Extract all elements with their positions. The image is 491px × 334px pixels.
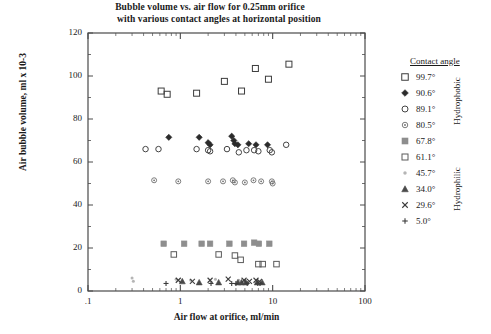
data-point-marker: [132, 280, 135, 283]
legend-item-label: 61.1°: [416, 152, 435, 162]
legend-item-80-5[interactable]: 80.5°: [396, 117, 491, 133]
data-point-marker: [164, 91, 170, 97]
data-point-marker: [196, 134, 202, 140]
series-9: [164, 281, 263, 286]
y-tick-label: 60: [48, 156, 82, 166]
legend-marker-icon: [396, 85, 416, 101]
legend-marker-svg: [396, 85, 416, 101]
data-point-marker: [216, 279, 222, 285]
legend-marker-glyph: [402, 202, 408, 208]
data-point-marker: [208, 278, 213, 283]
data-point-marker: [214, 278, 217, 281]
legend-marker-svg: [396, 149, 416, 165]
legend-marker-glyph: [402, 186, 409, 192]
y-tick-label: 20: [48, 242, 82, 252]
legend-item-99-7[interactable]: 99.7°: [396, 69, 491, 85]
legend-marker-svg: [396, 117, 416, 133]
legend-marker-icon: [396, 101, 416, 117]
legend-item-89-1[interactable]: 89.1°: [396, 101, 491, 117]
legend-item-90-6[interactable]: 90.6°: [396, 85, 491, 101]
data-point-marker: [156, 146, 162, 152]
data-point-marker: [286, 61, 292, 67]
legend-item-5-0[interactable]: 5.0°: [396, 213, 491, 229]
data-point-marker: [171, 252, 177, 258]
data-point-marker: [246, 141, 252, 147]
chart-figure: Bubble volume vs. air flow for 0.25mm or…: [0, 0, 491, 334]
data-point-marker: [232, 253, 238, 259]
legend-marker-glyph: [402, 154, 408, 160]
data-point-marker: [161, 241, 167, 247]
legend-item-label: 34.0°: [416, 184, 435, 194]
legend-item-label: 29.6°: [416, 200, 435, 210]
data-point-marker: [226, 277, 231, 282]
data-point-marker: [265, 76, 271, 82]
data-point-marker: [194, 90, 200, 96]
y-tick-label: 120: [48, 27, 82, 37]
legend-marker-glyph: [402, 138, 408, 144]
legend-item-67-8[interactable]: 67.8°: [396, 133, 491, 149]
legend-item-34-0[interactable]: 34.0°: [396, 181, 491, 197]
series-4: [161, 240, 272, 247]
data-point-marker: [207, 241, 213, 247]
legend-marker-icon: [396, 213, 416, 229]
data-point-marker: [221, 179, 226, 184]
legend-marker-icon: [396, 149, 416, 165]
legend-marker-glyph: [402, 90, 409, 97]
data-point-marker: [244, 147, 250, 153]
legend-marker-icon: [396, 197, 416, 213]
plot-border: [88, 33, 365, 291]
legend-item-29-6[interactable]: 29.6°: [396, 197, 491, 213]
legend-marker-svg: [396, 197, 416, 213]
x-tick-label: .1: [63, 296, 113, 306]
data-point-marker: [207, 149, 213, 155]
legend-marker-glyph: [402, 122, 408, 128]
legend-marker-svg: [396, 133, 416, 149]
legend-item-label: 67.8°: [416, 136, 435, 146]
legend-marker-glyph: [402, 218, 408, 224]
y-tick-label: 80: [48, 113, 82, 123]
data-point-marker: [227, 241, 233, 247]
data-point-marker: [176, 179, 181, 184]
data-point-marker: [131, 277, 134, 280]
series-0: [158, 61, 292, 97]
legend-marker-icon: [396, 165, 416, 181]
legend-item-45-7[interactable]: 45.7°: [396, 165, 491, 181]
legend-item-61-1[interactable]: 61.1°: [396, 149, 491, 165]
legend-marker-svg: [396, 101, 416, 117]
data-point-marker: [206, 179, 211, 184]
data-point-marker: [241, 241, 247, 247]
data-point-marker: [216, 252, 222, 258]
data-point-marker: [242, 180, 247, 185]
y-axis-title: Air bubble volume, ml x 10-3: [18, 27, 28, 197]
legend-marker-glyph: [403, 171, 407, 175]
series-3: [152, 178, 276, 186]
legend-marker-icon: [396, 69, 416, 85]
y-tick-label: 100: [48, 70, 82, 80]
group-label-hydrophobic: Hydrophobic: [452, 58, 462, 144]
data-point-marker: [166, 134, 172, 140]
data-point-marker: [152, 178, 157, 183]
data-point-marker: [259, 179, 264, 184]
data-point-marker: [274, 261, 280, 267]
y-tick-label: 0: [48, 285, 82, 295]
legend-marker-icon: [396, 133, 416, 149]
legend-item-label: 99.7°: [416, 72, 435, 82]
legend-item-label: 90.6°: [416, 88, 435, 98]
legend-marker-glyph: [402, 74, 409, 81]
series-5: [171, 252, 279, 267]
x-tick-label: 1: [155, 296, 205, 306]
legend-marker-icon: [396, 117, 416, 133]
data-point-marker: [158, 88, 164, 94]
legend-marker-svg: [396, 69, 416, 85]
legend-title: Contact angle: [410, 56, 491, 66]
legend: Contact angle 99.7°90.6°89.1°80.5°67.8°6…: [396, 56, 491, 229]
group-label-hydrophilic: Hydrophilic: [452, 146, 462, 232]
data-point-marker: [164, 281, 169, 286]
legend-item-label: 80.5°: [416, 120, 435, 130]
data-point-marker: [251, 178, 256, 183]
legend-item-label: 45.7°: [416, 168, 435, 178]
data-point-marker: [194, 146, 200, 152]
data-point-marker: [252, 65, 258, 71]
legend-item-label: 5.0°: [416, 216, 431, 226]
x-tick-label: 10: [248, 296, 298, 306]
